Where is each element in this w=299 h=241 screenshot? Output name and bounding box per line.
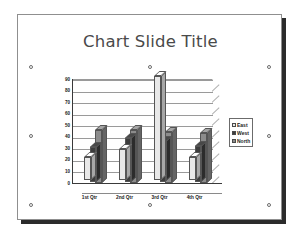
legend-item[interactable]: West bbox=[232, 129, 250, 136]
selection-handle-bottom-right[interactable] bbox=[267, 203, 271, 207]
chart-bar-face bbox=[84, 157, 91, 180]
chart-bar[interactable] bbox=[84, 157, 91, 180]
x-axis-tick: 2nd Qtr bbox=[107, 195, 142, 200]
y-axis-tick: 60 bbox=[55, 111, 70, 116]
page-title[interactable]: Chart Slide Title bbox=[18, 32, 283, 51]
x-axis-tick: 4th Qtr bbox=[177, 195, 212, 200]
y-axis-tick: 30 bbox=[55, 146, 70, 151]
y-axis-tick: 20 bbox=[55, 157, 70, 162]
selection-handle-top-right[interactable] bbox=[267, 65, 271, 69]
chart-bar-face bbox=[189, 157, 196, 180]
selection-handle-top-center[interactable] bbox=[148, 65, 152, 69]
chart-bar-side bbox=[166, 136, 171, 181]
y-axis-tick: 80 bbox=[55, 88, 70, 93]
y-axis-tick: 40 bbox=[55, 134, 70, 139]
selection-handle-bottom-left[interactable] bbox=[29, 203, 33, 207]
chart-bar-side bbox=[131, 133, 136, 182]
y-axis-tick: 70 bbox=[55, 100, 70, 105]
legend-swatch-icon bbox=[232, 131, 236, 135]
chart-bar[interactable] bbox=[119, 149, 126, 180]
y-axis-tick: 10 bbox=[55, 169, 70, 174]
y-axis-tick: 50 bbox=[55, 123, 70, 128]
chart-bar-side bbox=[172, 127, 177, 183]
chart-bars bbox=[72, 79, 222, 193]
chart-legend[interactable]: EastWestNorth bbox=[229, 118, 253, 147]
chart-bar-side bbox=[126, 144, 131, 180]
selection-handle-top-left[interactable] bbox=[29, 65, 33, 69]
legend-swatch-icon bbox=[232, 123, 236, 127]
legend-item[interactable]: East bbox=[232, 121, 250, 128]
slide-editor-canvas: Chart Slide Title 9080706050403020100 1s… bbox=[0, 0, 299, 241]
x-axis-tick-labels: 1st Qtr2nd Qtr3rd Qtr4th Qtr bbox=[72, 195, 222, 205]
y-axis-tick: 90 bbox=[55, 77, 70, 82]
y-axis-tick-labels: 9080706050403020100 bbox=[55, 79, 70, 183]
legend-label: East bbox=[237, 122, 248, 128]
chart-object[interactable]: 9080706050403020100 1st Qtr2nd Qtr3rd Qt… bbox=[31, 67, 270, 206]
legend-item[interactable]: North bbox=[232, 137, 250, 144]
x-axis-tick: 3rd Qtr bbox=[142, 195, 177, 200]
slide[interactable]: Chart Slide Title 9080706050403020100 1s… bbox=[17, 14, 282, 220]
chart-bar-side bbox=[201, 141, 206, 182]
chart-bar-side bbox=[102, 125, 107, 183]
legend-swatch-icon bbox=[232, 139, 236, 143]
chart-bar[interactable] bbox=[189, 157, 196, 180]
y-axis-tick: 0 bbox=[55, 181, 70, 186]
chart-bar-side bbox=[91, 152, 96, 180]
chart-bar-side bbox=[196, 152, 201, 180]
chart-bar[interactable] bbox=[154, 76, 161, 180]
selection-handle-bottom-center[interactable] bbox=[148, 203, 152, 207]
chart-bar-side bbox=[96, 142, 101, 181]
legend-label: West bbox=[237, 130, 249, 136]
chart-floor-edge bbox=[82, 193, 222, 194]
x-axis-tick: 1st Qtr bbox=[72, 195, 107, 200]
chart-bar-face bbox=[154, 76, 161, 180]
chart-bar-face bbox=[119, 149, 126, 180]
chart-bar-side bbox=[207, 128, 212, 183]
selection-handle-middle-right[interactable] bbox=[267, 134, 271, 138]
legend-label: North bbox=[237, 138, 250, 144]
chart-bar-side bbox=[161, 71, 166, 180]
selection-handle-middle-left[interactable] bbox=[29, 134, 33, 138]
chart-bar-side bbox=[137, 125, 142, 183]
